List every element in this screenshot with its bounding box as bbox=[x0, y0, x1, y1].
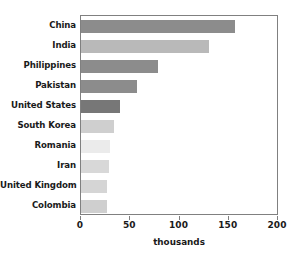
bar-chart-figure: ChinaIndiaPhilippinesPakistanUnited Stat… bbox=[0, 0, 296, 261]
bar bbox=[81, 40, 209, 53]
category-label: Romania bbox=[0, 140, 76, 150]
bar bbox=[81, 80, 137, 93]
category-label: South Korea bbox=[0, 120, 76, 130]
bar bbox=[81, 60, 158, 73]
bar bbox=[81, 180, 107, 193]
category-axis: ChinaIndiaPhilippinesPakistanUnited Stat… bbox=[0, 15, 76, 215]
bar bbox=[81, 160, 109, 173]
x-tick-label: 50 bbox=[123, 220, 136, 230]
x-tick-label: 100 bbox=[169, 220, 188, 230]
x-axis-title: thousands bbox=[80, 237, 278, 247]
category-label: Colombia bbox=[0, 200, 76, 210]
category-label: China bbox=[0, 20, 76, 30]
x-tick-label: 0 bbox=[77, 220, 83, 230]
category-label: United States bbox=[0, 100, 76, 110]
category-label: Pakistan bbox=[0, 80, 76, 90]
plot-area bbox=[80, 15, 278, 215]
bar bbox=[81, 100, 120, 113]
category-label: Iran bbox=[0, 160, 76, 170]
category-label: India bbox=[0, 40, 76, 50]
category-label: Philippines bbox=[0, 60, 76, 70]
x-tick-label: 200 bbox=[268, 220, 287, 230]
bar bbox=[81, 20, 235, 33]
bar bbox=[81, 120, 114, 133]
value-axis: 050100150200 bbox=[80, 216, 278, 232]
bar bbox=[81, 200, 107, 213]
category-label: United Kingdom bbox=[0, 180, 76, 190]
x-tick-label: 150 bbox=[218, 220, 237, 230]
bar bbox=[81, 140, 110, 153]
